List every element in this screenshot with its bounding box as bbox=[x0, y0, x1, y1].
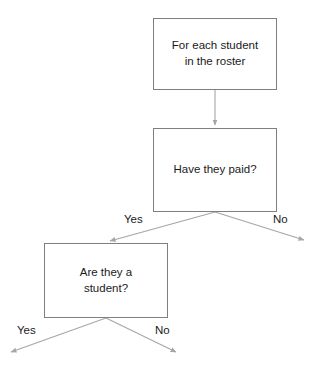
edge-label-paid-no: No bbox=[273, 214, 288, 226]
node-for-each-student: For each student in the roster bbox=[153, 18, 277, 90]
edge-label-paid-yes: Yes bbox=[124, 214, 143, 226]
node-have-they-paid: Have they paid? bbox=[153, 128, 277, 212]
node-are-they-a-student: Are they a student? bbox=[44, 243, 168, 318]
edge-label-student-yes: Yes bbox=[17, 325, 36, 337]
flowchart-canvas: For each student in the roster Have they… bbox=[0, 0, 322, 376]
edge-label-student-no: No bbox=[155, 325, 170, 337]
edge-paid-no bbox=[215, 212, 304, 240]
